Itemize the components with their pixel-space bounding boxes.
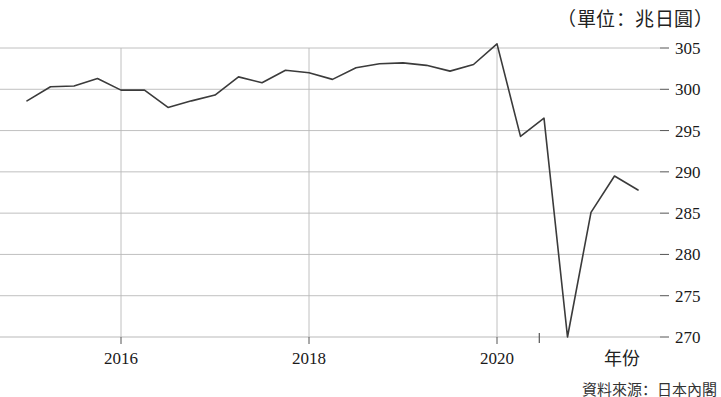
y-tick-label-280: 280	[675, 245, 701, 264]
x-axis-title: 年份	[604, 344, 640, 370]
chart-plot-area: 270275280285290295300305 201620182020	[0, 0, 721, 397]
y-tick-label-305: 305	[675, 39, 701, 58]
y-tick-label-300: 300	[675, 80, 701, 99]
x-tick-label-2020: 2020	[480, 349, 514, 368]
y-tick-labels: 270275280285290295300305	[675, 39, 701, 347]
vertical-gridlines-group	[121, 48, 497, 337]
x-tick-label-2016: 2016	[104, 349, 138, 368]
y-tick-label-290: 290	[675, 163, 701, 182]
line-chart: 270275280285290295300305 201620182020	[0, 0, 721, 397]
gridlines-group	[0, 48, 660, 337]
y-tick-label-285: 285	[675, 204, 701, 223]
y-tick-label-275: 275	[675, 287, 701, 306]
x-tick-labels: 201620182020	[104, 349, 514, 368]
source-note: 資料來源：日本內閣	[582, 378, 717, 397]
x-tick-marks	[121, 333, 539, 344]
y-tick-label-270: 270	[675, 328, 701, 347]
data-series-line	[27, 44, 638, 337]
y-tick-marks	[660, 48, 669, 337]
x-tick-label-2018: 2018	[292, 349, 326, 368]
y-tick-label-295: 295	[675, 122, 701, 141]
